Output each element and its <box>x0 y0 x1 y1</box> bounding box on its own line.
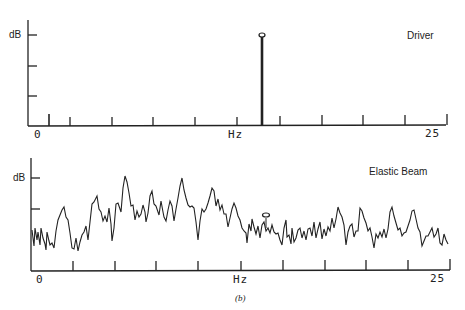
top-x-end: 25 <box>425 127 440 140</box>
bottom-x-end: 25 <box>430 272 445 285</box>
top-x-label: Hz <box>228 128 243 141</box>
figure-caption: (b) <box>235 293 246 303</box>
top-ylabel: dB <box>9 29 21 40</box>
bottom-ylabel: dB <box>13 172 25 183</box>
bottom-x-label: Hz <box>233 273 248 286</box>
bottom-x-start: 0 <box>36 273 44 286</box>
top-x-start: 0 <box>34 128 42 141</box>
driver-chart <box>28 20 447 126</box>
chart-canvas <box>0 0 465 310</box>
bottom-chart-title: Elastic Beam <box>369 166 427 177</box>
top-chart-title: Driver <box>407 30 434 41</box>
